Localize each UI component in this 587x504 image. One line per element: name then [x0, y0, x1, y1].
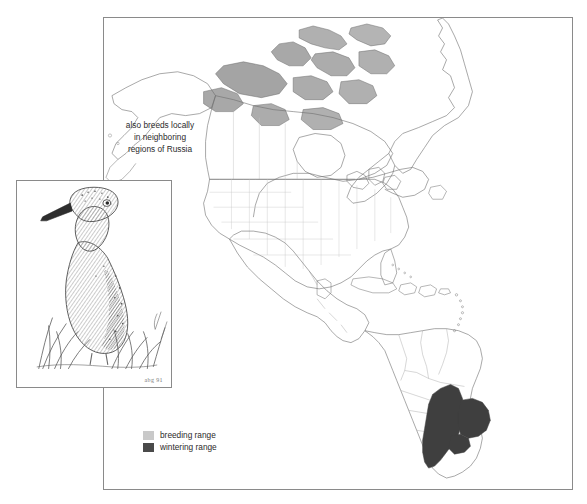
legend-item-breeding: breeding range [143, 431, 217, 440]
wintering-range-swatch [143, 443, 154, 452]
range-map-graphic [104, 18, 572, 489]
greenland-outline [347, 18, 472, 203]
bird-legs [90, 353, 108, 365]
bird-bill [41, 203, 73, 221]
caribbean-islands [351, 264, 464, 332]
breeding-range-annotation: also breeds locally in neighboring regio… [110, 119, 210, 155]
wintering-range-label: wintering range [160, 443, 217, 452]
legend-item-wintering: wintering range [143, 443, 217, 452]
artist-signature: abg 91 [144, 377, 163, 383]
grass-seed-heads [154, 312, 167, 340]
central-america-outline [229, 231, 368, 343]
breeding-range-label: breeding range [160, 431, 216, 440]
ground-line [37, 365, 157, 368]
bird-pupil [106, 201, 110, 205]
map-frame [103, 17, 573, 490]
breeding-range-swatch [143, 431, 154, 440]
united-states-outline [204, 179, 409, 289]
map-legend: breeding range wintering range [143, 431, 217, 452]
wintering-range-shading [423, 384, 491, 468]
bird-illustration-graphic [17, 181, 171, 387]
bird-illustration-inset: abg 91 [16, 180, 172, 388]
breeding-range-shading [204, 24, 395, 130]
